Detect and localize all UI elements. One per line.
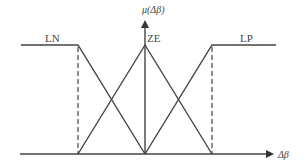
lp-label: LP: [240, 32, 253, 44]
ln-label: LN: [45, 32, 60, 44]
membership-diagram: LN ZE LP μ(Δβ) Δβ: [0, 0, 307, 165]
x-axis-label: Δβ: [277, 149, 289, 160]
y-axis-label: μ(Δβ): [141, 4, 165, 16]
lp-membership-curve: [145, 45, 276, 154]
ze-label: ZE: [147, 32, 161, 44]
ln-membership-curve: [21, 45, 145, 154]
